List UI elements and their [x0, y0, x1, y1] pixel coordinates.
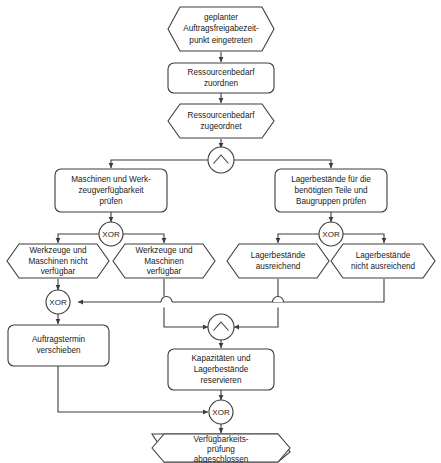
edge-available-to-and-join: [164, 279, 208, 327]
node-function-check-machines[interactable]: Maschinen und Werk- zeugverfügbarkeit pr…: [55, 169, 167, 212]
stock-insufficient-line-1: Lagerbestände: [356, 251, 411, 260]
end-event-line-3: abgeschlossen: [194, 455, 249, 463]
xor-final-label: XOR: [212, 408, 230, 417]
event-hexagon: [168, 104, 274, 138]
edge-xor-stock-to-insufficient: [343, 234, 384, 243]
start-event-line-3: punkt eingetreten: [189, 36, 253, 45]
node-xor-stock-connector[interactable]: XOR: [319, 222, 343, 246]
tools-unavailable-line-2: Maschinen nicht: [28, 257, 88, 266]
node-xor-machines-connector[interactable]: XOR: [99, 222, 123, 246]
node-event-tools-available[interactable]: Werkzeuge und Maschinen verfügbar: [113, 244, 215, 278]
node-event-assigned[interactable]: Ressourcenbedarf zugeordnet: [168, 104, 274, 138]
check-stock-line-3: Baugruppen prüfen: [296, 197, 367, 206]
event-hexagon: [331, 244, 435, 278]
tools-available-line-3: verfügbar: [147, 267, 182, 276]
edge-and-split-to-right-function: [234, 160, 331, 168]
node-event-tools-unavailable[interactable]: Werkzeuge und Maschinen nicht verfügbar: [7, 244, 109, 278]
reschedule-line-1: Auftragstermin: [32, 335, 86, 344]
edge-and-split-to-left-function: [111, 160, 208, 168]
end-event-line-2: prüfung: [207, 445, 235, 454]
epc-diagram-svg: geplanter Auftragsfreigabezeit- punkt ei…: [0, 0, 441, 463]
event-hexagon: [227, 244, 329, 278]
start-event-line-2: Auftragsfreigabezeit-: [183, 24, 259, 33]
function-assign-line-2: zuordnen: [204, 79, 239, 88]
stock-sufficient-line-2: ausreichend: [256, 262, 301, 271]
node-xor-join-left-connector[interactable]: XOR: [46, 290, 70, 314]
connector-circle: [208, 314, 234, 340]
tools-unavailable-line-3: verfügbar: [41, 267, 76, 276]
check-machines-line-1: Maschinen und Werk-: [71, 175, 151, 184]
node-function-assign[interactable]: Ressourcenbedarf zuordnen: [168, 63, 274, 93]
xor-stock-label: XOR: [322, 230, 340, 239]
reschedule-line-2: verschieben: [36, 346, 81, 355]
node-function-reschedule[interactable]: Auftragstermin verschieben: [8, 325, 109, 366]
node-xor-final-connector[interactable]: XOR: [209, 400, 233, 424]
connector-circle: [208, 147, 234, 173]
node-event-stock-insufficient[interactable]: Lagerbestände nicht ausreichend: [331, 244, 435, 278]
xor-join-left-label: XOR: [49, 298, 67, 307]
reserve-line-3: reservieren: [201, 376, 242, 385]
end-event-line-1: Verfügbarkeits-: [193, 435, 248, 444]
edge-xor-machines-to-unavailable: [58, 234, 99, 243]
stock-sufficient-line-1: Lagerbestände: [251, 251, 306, 260]
start-event-line-1: geplanter: [204, 13, 238, 22]
stock-insufficient-line-2: nicht ausreichend: [351, 262, 416, 271]
check-machines-line-2: zeugverfügbarkeit: [78, 186, 144, 195]
line-hop-stock-sufficient: [273, 297, 284, 303]
edge-xor-machines-to-available: [123, 234, 164, 243]
tools-available-line-1: Werkzeuge und: [135, 246, 193, 255]
node-event-stock-sufficient[interactable]: Lagerbestände ausreichend: [227, 244, 329, 278]
xor-machines-label: XOR: [102, 230, 120, 239]
check-stock-line-1: Lagerbestände für die: [291, 175, 371, 184]
epc-diagram-canvas: geplanter Auftragsfreigabezeit- punkt ei…: [0, 0, 441, 463]
node-and-split-connector[interactable]: [208, 147, 234, 173]
edge-xor-stock-to-sufficient: [278, 234, 319, 243]
node-start-event[interactable]: geplanter Auftragsfreigabezeit- punkt ei…: [168, 7, 274, 51]
node-function-reserve[interactable]: Kapazitäten und Lagerbestände reserviere…: [168, 349, 274, 390]
function-assign-line-1: Ressourcenbedarf: [188, 68, 256, 77]
tools-available-line-2: Maschinen: [144, 257, 184, 266]
reserve-line-2: Lagerbestände: [194, 365, 249, 374]
reserve-line-1: Kapazitäten und: [191, 354, 251, 363]
node-function-check-stock[interactable]: Lagerbestände für die benötigten Teile u…: [275, 169, 387, 212]
event-assigned-line-2: zugeordnet: [201, 122, 243, 131]
line-hop-tools-available: [161, 297, 172, 303]
check-stock-line-2: benötigten Teile und: [294, 186, 368, 195]
node-end-event[interactable]: Verfügbarkeits- prüfung abgeschlossen: [152, 434, 290, 463]
tools-unavailable-line-1: Werkzeuge und: [29, 246, 87, 255]
node-and-join-connector[interactable]: [208, 314, 234, 340]
event-assigned-line-1: Ressourcenbedarf: [188, 111, 256, 120]
check-machines-line-3: prüfen: [99, 197, 123, 206]
edge-sufficient-to-and-join-segment-b: [234, 307, 278, 327]
